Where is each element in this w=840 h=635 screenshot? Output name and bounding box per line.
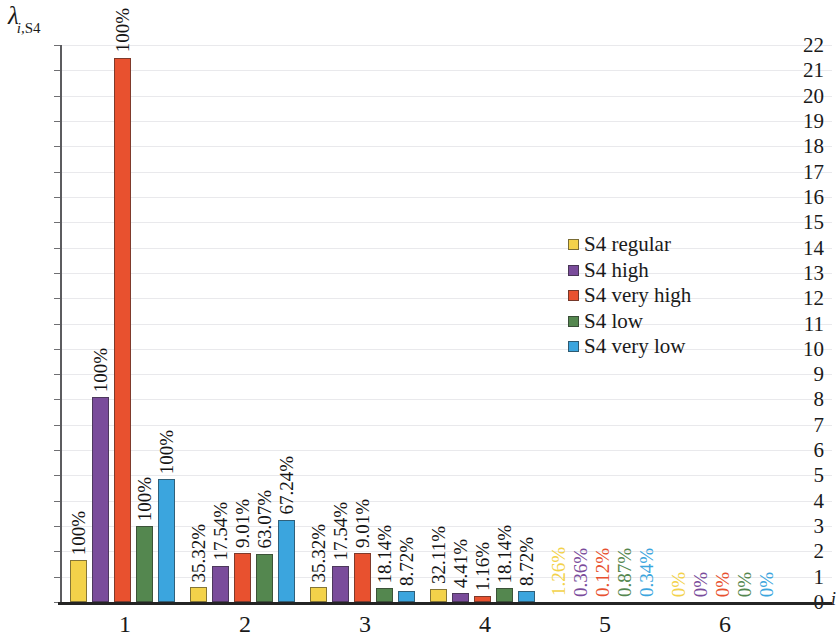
bar-value-label: 9.01% <box>353 499 372 548</box>
gridline <box>60 501 832 502</box>
y-axis-title-subscript-i: i, <box>17 20 25 36</box>
legend-item-label: S4 low <box>584 309 643 335</box>
gridline <box>60 197 832 198</box>
legend-item: S4 regular <box>568 232 691 258</box>
bar-value-label: 17.54% <box>211 502 230 561</box>
y-axis-tick-label: 19 <box>803 111 824 132</box>
legend-item: S4 very high <box>568 283 691 309</box>
bar <box>234 553 251 602</box>
y-axis-title: λi,S4 <box>8 2 43 34</box>
bar-value-label: 17.54% <box>331 502 350 561</box>
bar <box>256 554 273 602</box>
bar-value-label: 0% <box>735 572 754 597</box>
y-axis-tick-label: 12 <box>803 288 824 309</box>
bar-value-label: 0% <box>757 572 776 597</box>
bar-value-label: 4.41% <box>451 539 470 588</box>
x-axis-tick-label: 1 <box>55 611 195 635</box>
gridline <box>60 146 832 147</box>
y-axis-tick-label: 13 <box>803 263 824 284</box>
bar <box>190 587 207 602</box>
bar <box>70 560 87 602</box>
bar <box>398 591 415 602</box>
bar <box>452 593 469 602</box>
bar <box>430 589 447 602</box>
x-axis-tick-label: 2 <box>175 611 315 635</box>
x-axis-line <box>58 602 832 605</box>
gridline <box>60 324 832 325</box>
gridline <box>60 349 832 350</box>
plot-area: 012345678910111213141516171819202122 100… <box>60 45 832 602</box>
bar-value-label: 63.07% <box>255 490 274 549</box>
gridline <box>60 45 832 46</box>
x-axis-tick-label: 3 <box>295 611 435 635</box>
legend-color-swatch <box>568 290 579 301</box>
bar <box>212 566 229 602</box>
bar-value-label: 100% <box>135 477 154 521</box>
bar-value-label: 1.16% <box>473 542 492 591</box>
gridline <box>60 399 832 400</box>
bar-value-label: 0.12% <box>593 548 612 597</box>
bar-value-label: 8.72% <box>517 537 536 586</box>
y-axis-tick-label: 4 <box>814 491 825 512</box>
bar <box>278 520 295 602</box>
legend-item: S4 low <box>568 309 691 335</box>
y-axis-tick-label: 6 <box>814 440 825 461</box>
bar <box>332 566 349 602</box>
y-axis-tick-label: 9 <box>814 364 825 385</box>
y-axis-tick-label: 16 <box>803 187 824 208</box>
y-axis-tick-label: 20 <box>803 86 824 107</box>
bar <box>114 58 131 602</box>
gridline <box>60 121 832 122</box>
bar <box>376 588 393 602</box>
bar <box>158 479 175 602</box>
bar <box>474 596 491 602</box>
bar-value-label: 0% <box>669 572 688 597</box>
bar-value-label: 0.34% <box>637 548 656 597</box>
y-axis-tick-label: 2 <box>814 541 825 562</box>
legend-color-swatch <box>568 316 579 327</box>
y-axis-line <box>60 45 62 602</box>
x-axis-tick-label: 4 <box>415 611 555 635</box>
gridline <box>60 172 832 173</box>
bar-value-label: 0.36% <box>571 548 590 597</box>
legend-item-label: S4 very low <box>584 334 686 360</box>
bar-value-label: 67.24% <box>277 456 296 515</box>
bar-value-label: 8.72% <box>397 537 416 586</box>
y-axis-tick-label: 8 <box>814 389 825 410</box>
y-axis-tick-label: 14 <box>803 238 824 259</box>
legend-item-label: S4 high <box>584 258 649 284</box>
bar-value-label: 100% <box>157 430 176 474</box>
legend-color-swatch <box>568 239 579 250</box>
y-axis-tick-label: 18 <box>803 136 824 157</box>
bar-value-label: 18.14% <box>495 525 514 584</box>
bar <box>518 591 535 602</box>
bar-value-label: 35.32% <box>189 524 208 583</box>
bar-value-label: 100% <box>91 348 110 392</box>
y-axis-tick-label: 15 <box>803 212 824 233</box>
x-axis-tick-label: 5 <box>535 611 675 635</box>
gridline <box>60 425 832 426</box>
legend-color-swatch <box>568 265 579 276</box>
bar <box>354 553 371 602</box>
y-axis-tick-label: 10 <box>803 339 824 360</box>
bar-value-label: 100% <box>113 8 132 52</box>
gridline <box>60 273 832 274</box>
y-axis-title-subscript-s4: S4 <box>25 20 41 36</box>
legend-item: S4 very low <box>568 334 691 360</box>
legend-item: S4 high <box>568 258 691 284</box>
y-axis-tick-label: 7 <box>814 415 825 436</box>
bar <box>310 587 327 602</box>
bar-value-label: 0% <box>713 572 732 597</box>
legend-item-label: S4 very high <box>584 283 691 309</box>
gridline <box>60 96 832 97</box>
y-axis-tick-label: 11 <box>804 314 824 335</box>
gridline <box>60 248 832 249</box>
bar-value-label: 18.14% <box>375 525 394 584</box>
y-axis-tick-label: 5 <box>814 465 825 486</box>
bar-value-label: 9.01% <box>233 499 252 548</box>
y-axis-tick-label: 3 <box>814 516 825 537</box>
gridline <box>60 222 832 223</box>
bar-value-label: 0.87% <box>615 548 634 597</box>
bar-value-label: 0% <box>691 572 710 597</box>
y-axis-tick-label: 1 <box>814 567 825 588</box>
